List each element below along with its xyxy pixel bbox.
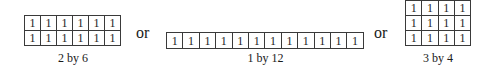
grid-cell: 1 [314, 33, 330, 49]
separator-or-1: or [136, 24, 149, 42]
grid-cell: 1 [216, 33, 232, 49]
grid-cell: 1 [438, 1, 454, 16]
grid-row: 1111 [406, 1, 471, 16]
grid-cell: 1 [57, 16, 73, 31]
grid-cell: 1 [89, 16, 105, 31]
grid-cell: 1 [330, 33, 346, 49]
grid-cell: 1 [438, 31, 454, 46]
grid-cell: 1 [167, 33, 183, 49]
grid-2-by-6: 111111111111 [24, 15, 121, 46]
grid-cell: 1 [105, 31, 121, 46]
grid-cell: 1 [73, 16, 89, 31]
grid-row: 111111111111 [167, 33, 364, 49]
grid-row: 1111 [406, 31, 471, 46]
grid-cell: 1 [298, 33, 314, 49]
grid-cell: 1 [248, 33, 264, 49]
grid-cell: 1 [73, 31, 89, 46]
label-3-by-4: 3 by 4 [405, 51, 471, 66]
label-2-by-6: 2 by 6 [24, 51, 122, 66]
grid-cell: 1 [199, 33, 215, 49]
grid-cell: 1 [25, 31, 41, 46]
separator-or-2: or [374, 24, 387, 42]
grid-row: 111111 [25, 16, 121, 31]
grid-cell: 1 [281, 33, 297, 49]
grid-cell: 1 [25, 16, 41, 31]
grid-cell: 1 [105, 16, 121, 31]
grid-3-by-4: 111111111111 [405, 0, 471, 46]
grid-cell: 1 [265, 33, 281, 49]
grid-cell: 1 [41, 31, 57, 46]
grid-cell: 1 [438, 16, 454, 31]
grid-cell: 1 [57, 31, 73, 46]
grid-cell: 1 [422, 31, 438, 46]
grid-cell: 1 [406, 1, 422, 16]
grid-cell: 1 [454, 16, 470, 31]
grid-cell: 1 [454, 1, 470, 16]
grid-cell: 1 [422, 16, 438, 31]
grid-cell: 1 [406, 31, 422, 46]
grid-cell: 1 [41, 16, 57, 31]
grid-row: 1111 [406, 16, 471, 31]
grid-cell: 1 [454, 31, 470, 46]
grid-cell: 1 [232, 33, 248, 49]
grid-cell: 1 [406, 16, 422, 31]
grid-row: 111111 [25, 31, 121, 46]
grid-cell: 1 [422, 1, 438, 16]
grid-cell: 1 [347, 33, 363, 49]
grid-1-by-12: 111111111111 [166, 32, 364, 49]
grid-cell: 1 [183, 33, 199, 49]
label-1-by-12: 1 by 12 [166, 51, 365, 66]
grid-cell: 1 [89, 31, 105, 46]
